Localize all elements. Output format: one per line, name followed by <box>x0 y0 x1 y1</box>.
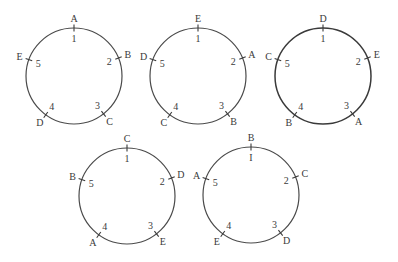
position-number: 4 <box>102 221 107 232</box>
person-label: D <box>319 13 326 24</box>
position-number: 2 <box>284 175 289 186</box>
circle-5: BIC2D3E4A5 <box>193 132 309 248</box>
position-tick <box>168 112 172 118</box>
person-label: D <box>36 117 43 128</box>
position-number: I <box>249 152 252 163</box>
position-tick <box>44 112 48 118</box>
person-label: C <box>124 133 131 144</box>
circle-4: C1D2E3A4B5 <box>69 133 184 249</box>
position-number: 4 <box>173 101 178 112</box>
person-label: A <box>70 13 78 24</box>
person-label: C <box>106 116 113 127</box>
person-label: D <box>177 169 184 180</box>
position-number: 2 <box>160 176 165 187</box>
position-number: 5 <box>160 58 165 69</box>
person-label: E <box>214 236 220 247</box>
circle-2: E1A2B3C4D5 <box>140 13 256 129</box>
person-label: D <box>140 51 147 62</box>
position-number: 2 <box>231 56 236 67</box>
person-label: B <box>286 117 293 128</box>
person-label: E <box>195 13 201 24</box>
position-number: 4 <box>226 220 231 231</box>
person-label: B <box>230 116 237 127</box>
position-number: 3 <box>95 100 100 111</box>
person-label: C <box>161 117 168 128</box>
position-number: 5 <box>89 178 94 189</box>
position-number: 3 <box>344 100 349 111</box>
position-number: 1 <box>125 153 130 164</box>
circle-3: D1E2A3B4C5 <box>265 13 380 129</box>
person-label: E <box>374 49 380 60</box>
circular-arrangements-diagram: A1B2C3D4E5E1A2B3C4D5D1E2A3B4C5C1D2E3A4B5… <box>0 0 398 262</box>
position-number: 4 <box>49 101 54 112</box>
position-number: 2 <box>107 56 112 67</box>
person-label: E <box>16 51 22 62</box>
position-number: 5 <box>213 177 218 188</box>
position-number: 5 <box>36 58 41 69</box>
position-number: 3 <box>272 219 277 230</box>
position-number: 2 <box>356 56 361 67</box>
position-number: 5 <box>285 58 290 69</box>
position-number: 4 <box>298 101 303 112</box>
position-number: 1 <box>321 33 326 44</box>
person-label: C <box>301 168 308 179</box>
person-label: A <box>193 170 201 181</box>
person-label: A <box>89 237 97 248</box>
position-number: 1 <box>72 33 77 44</box>
person-label: E <box>160 236 166 247</box>
person-label: B <box>248 132 255 143</box>
position-number: 3 <box>148 220 153 231</box>
person-label: D <box>283 235 290 246</box>
position-number: 1 <box>196 33 201 44</box>
circle-1: A1B2C3D4E5 <box>16 13 131 129</box>
person-label: B <box>124 49 131 60</box>
position-tick <box>97 232 101 238</box>
person-label: C <box>265 51 272 62</box>
position-tick <box>221 231 225 237</box>
person-label: A <box>248 49 256 60</box>
person-label: A <box>355 116 363 127</box>
position-number: 3 <box>219 100 224 111</box>
person-label: B <box>69 171 76 182</box>
